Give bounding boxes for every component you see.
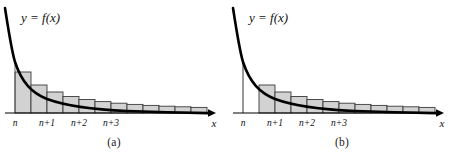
tick-label-n-plus-1: n+1 [267, 118, 283, 128]
bar [95, 102, 111, 113]
curve-label: y = f(x) [247, 10, 288, 25]
bar [323, 102, 339, 113]
figure-root: n n+1 n+2 n+3 x y = f(x) (a) [0, 0, 456, 161]
tick-label-n-plus-3: n+3 [103, 118, 119, 128]
x-axis-label: x [439, 117, 445, 129]
x-axis-label: x [211, 117, 217, 129]
tick-label-n-plus-2: n+2 [299, 118, 315, 128]
x-axis-arrow-icon [436, 109, 444, 117]
curve-label: y = f(x) [19, 10, 60, 25]
panel-b: n n+1 n+2 n+3 x y = f(x) (b) [228, 0, 456, 161]
bars-group-a [15, 72, 207, 113]
panel-a-caption: (a) [0, 136, 228, 148]
tick-label-n-plus-2: n+2 [71, 118, 87, 128]
panel-b-caption: (b) [228, 136, 456, 148]
tick-label-n: n [13, 118, 18, 128]
bars-group-b [259, 85, 435, 113]
tick-label-n: n [241, 118, 246, 128]
panel-a: n n+1 n+2 n+3 x y = f(x) (a) [0, 0, 228, 161]
tick-label-n-plus-3: n+3 [331, 118, 347, 128]
tick-label-n-plus-1: n+1 [39, 118, 55, 128]
x-axis-arrow-icon [208, 109, 216, 117]
